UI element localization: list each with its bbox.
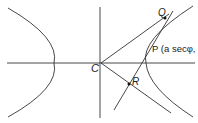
- line-c-to-r: [101, 63, 171, 113]
- label-r: R: [132, 76, 139, 87]
- line-c-to-q: [101, 14, 169, 63]
- hyperbola-left-branch: [8, 8, 55, 117]
- label-c: C: [91, 62, 99, 74]
- label-q: Q: [158, 7, 166, 18]
- point-r: [128, 83, 131, 86]
- label-p: P (a secφ,: [152, 43, 195, 54]
- hyperbola-diagram: C Q P (a secφ, R: [0, 0, 198, 123]
